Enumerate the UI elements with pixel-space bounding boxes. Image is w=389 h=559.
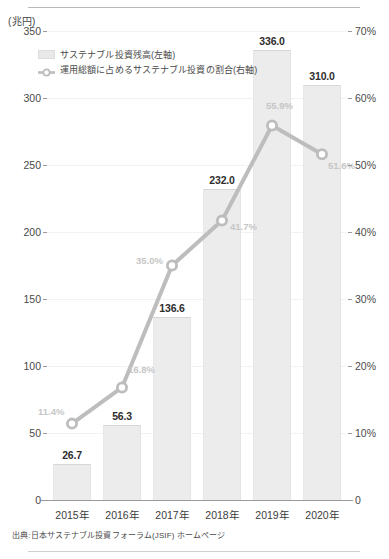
left-axis-tickmark xyxy=(43,232,47,233)
left-axis-tickmark xyxy=(43,299,47,300)
left-axis-tickmark xyxy=(43,165,47,166)
line-path xyxy=(72,125,322,423)
right-axis-tick-label: 40% xyxy=(355,226,389,238)
legend: サステナブル投資残高(左軸) 運用総額に占めるサステナブル投資の割合(右軸) xyxy=(38,48,257,78)
line-series-group xyxy=(47,31,347,500)
top-divider xyxy=(28,7,360,8)
percent-value-label: 41.7% xyxy=(230,221,257,232)
percent-value-label: 55.9% xyxy=(266,100,293,111)
left-axis-tick-label: 250 xyxy=(0,159,41,171)
x-axis-tick-label: 2020年 xyxy=(292,507,352,522)
right-axis-tick-label: 60% xyxy=(355,92,389,104)
right-axis-tick-label: 0 xyxy=(355,494,389,506)
legend-item-line: 運用総額に占めるサステナブル投資の割合(右軸) xyxy=(38,63,257,76)
percent-value-label: 35.0% xyxy=(136,255,163,266)
left-axis-tickmark xyxy=(43,98,47,99)
left-axis-tick-label: 0 xyxy=(0,494,41,506)
line-marker xyxy=(317,150,326,159)
chart-container: (兆円) 26.756.3136.6232.0336.0310.0 11.4%1… xyxy=(0,0,389,559)
line-marker xyxy=(67,419,76,428)
left-axis-tickmark xyxy=(43,366,47,367)
left-axis-tick-label: 300 xyxy=(0,92,41,104)
left-axis-tick-label: 150 xyxy=(0,293,41,305)
source-note: 出典:日本サステナブル投資フォーラム(JSIF) ホームページ xyxy=(12,529,225,540)
left-axis-tick-label: 50 xyxy=(0,427,41,439)
left-axis-tick-label: 200 xyxy=(0,226,41,238)
right-axis-tickmark xyxy=(348,433,352,434)
percent-value-label: 16.8% xyxy=(128,364,155,375)
right-axis-tickmark xyxy=(348,31,352,32)
line-marker xyxy=(267,121,276,130)
right-axis-tick-label: 10% xyxy=(355,427,389,439)
left-axis-tickmark xyxy=(43,433,47,434)
bar-swatch-icon xyxy=(38,50,55,59)
right-axis-tick-label: 20% xyxy=(355,360,389,372)
bottom-divider xyxy=(28,551,360,552)
right-axis-tickmark xyxy=(348,165,352,166)
percent-value-label: 11.4% xyxy=(38,406,64,417)
right-axis-tick-label: 30% xyxy=(355,293,389,305)
left-axis-tickmark xyxy=(43,31,47,32)
plot-area: 26.756.3136.6232.0336.0310.0 11.4%16.8%3… xyxy=(47,31,347,500)
line-marker-icon xyxy=(38,64,55,75)
right-axis-tickmark xyxy=(348,232,352,233)
line-marker xyxy=(167,261,176,270)
right-axis-tick-label: 50% xyxy=(355,159,389,171)
left-axis-tick-label: 350 xyxy=(0,25,41,37)
right-axis-tickmark xyxy=(348,98,352,99)
legend-item-bar: サステナブル投資残高(左軸) xyxy=(38,48,257,61)
legend-item-bar-label: サステナブル投資残高(左軸) xyxy=(60,48,175,61)
line-marker xyxy=(217,216,226,225)
line-marker xyxy=(117,383,126,392)
legend-item-line-label: 運用総額に占めるサステナブル投資の割合(右軸) xyxy=(60,63,257,76)
right-axis-tickmark xyxy=(348,299,352,300)
right-axis-tick-label: 70% xyxy=(355,25,389,37)
left-axis-tick-label: 100 xyxy=(0,360,41,372)
x-axis-line xyxy=(41,500,353,501)
right-axis-tickmark xyxy=(348,366,352,367)
